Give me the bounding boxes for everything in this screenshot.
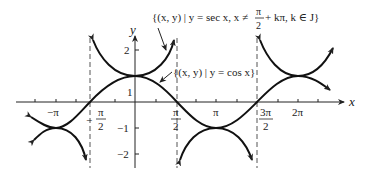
sec-label-den: 2	[256, 20, 261, 31]
y-axis-label: y	[128, 22, 136, 37]
sec-branch-center	[93, 40, 174, 76]
sec-label-part-a: {(x, y) | y = sec x, x ≠	[152, 11, 248, 24]
tick-pi: π	[213, 106, 219, 118]
sec-label-part-b: + kπ, k ∈ J}	[265, 11, 319, 23]
cos-label-pointer	[160, 72, 172, 82]
tick-y-1: 1	[127, 86, 133, 98]
tick-neg-pi: −π	[47, 106, 59, 118]
tick-y-2: 2	[124, 44, 130, 56]
cos-label: {(x, y) | y = cos x}	[173, 66, 255, 79]
sec-label-num: π	[256, 6, 261, 17]
sec-branch-pi	[180, 128, 252, 160]
tick-neg-half-pi-sign: −	[86, 114, 92, 126]
sec-label-pointer	[158, 28, 166, 50]
tick-two-pi: 2π	[292, 106, 304, 118]
x-axis-label: x	[348, 94, 355, 109]
tick-three-half-pi-num: 3π	[260, 106, 272, 118]
sec-cos-graph: x y −π − π 2 π 2 π 3π 2 2π 2 1 −1 −2 {(x…	[0, 0, 367, 170]
axes	[16, 36, 344, 168]
tick-y-neg-1: −1	[117, 122, 129, 134]
tick-half-pi-den: 2	[173, 120, 179, 132]
tick-y-neg-2: −2	[117, 148, 129, 160]
sec-branch-right	[260, 40, 333, 76]
asymptote-lines	[90, 38, 257, 168]
tick-neg-half-pi-num: π	[98, 106, 104, 118]
tick-three-half-pi-den: 2	[263, 120, 269, 132]
tick-half-pi-num: π	[173, 106, 179, 118]
sec-branch-neg-pi	[34, 128, 86, 160]
tick-neg-half-pi-den: 2	[98, 120, 104, 132]
